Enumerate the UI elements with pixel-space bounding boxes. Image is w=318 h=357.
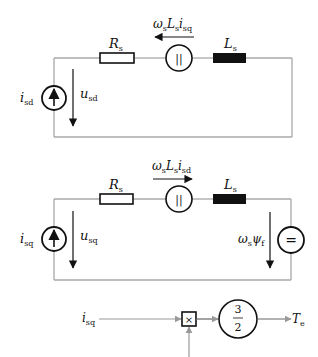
d-resistor	[100, 53, 134, 63]
q-inductor	[213, 194, 246, 204]
d-resistor-label: Rs	[108, 36, 123, 53]
torque-block-diagram: isq × 3 2 Te	[82, 300, 305, 357]
q-inductor-label: Ls	[223, 177, 237, 194]
q-voltage-label: usq	[80, 228, 98, 245]
torque-input-label: isq	[82, 311, 95, 327]
d-voltage-label: usd	[80, 86, 98, 103]
pmsm-equivalent-circuit-diagram: Rs || ωsLsisq Ls isd usd Rs |	[0, 0, 318, 357]
d-current-label: isd	[20, 90, 33, 107]
gain-numerator: 3	[235, 303, 242, 316]
q-coupling-source-glyph: ||	[175, 193, 182, 207]
q-resistor	[100, 194, 133, 204]
d-coupling-source-glyph: ||	[175, 52, 182, 66]
torque-output-label: Te	[292, 312, 305, 328]
multiplier-icon: ×	[185, 314, 193, 325]
d-inductor	[213, 53, 246, 63]
d-coupling-label: ωsLsisq	[153, 17, 192, 33]
gain-denominator: 2	[235, 321, 242, 334]
q-coupling-label: ωsLsisd	[152, 159, 191, 175]
q-back-emf-glyph: =	[285, 232, 297, 248]
q-resistor-label: Rs	[108, 177, 123, 194]
q-current-label: isq	[20, 231, 33, 248]
q-axis-circuit: Rs || ωsLsisd Ls isq usq = ωsψf	[20, 159, 304, 280]
d-axis-circuit: Rs || ωsLsisq Ls isd usd	[20, 17, 292, 137]
d-inductor-label: Ls	[223, 36, 237, 53]
q-back-emf-label: ωsψf	[238, 232, 265, 248]
